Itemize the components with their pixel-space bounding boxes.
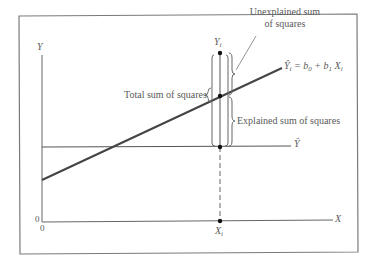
yi-label-text: Y [214, 36, 220, 47]
eq-x-sub: i [341, 65, 343, 73]
eq-plus-b: + b [312, 60, 329, 71]
unexplained-line1: Unexplained sum [245, 7, 325, 17]
explained-brace [229, 97, 235, 146]
xi-point [218, 219, 222, 223]
x-axis [42, 220, 333, 222]
unexplained-line2: of squares [245, 19, 325, 29]
eq-x: X [335, 60, 341, 71]
outer-frame [19, 14, 358, 254]
yhat-point [218, 94, 222, 98]
y-axis-label: Y [37, 42, 43, 52]
yi-label: Yi [214, 37, 222, 47]
regression-equation: Ŷi = b0 + b1 Xi [284, 61, 343, 71]
diagram-svg [0, 0, 376, 263]
eq-b0-sub: 0 [308, 65, 312, 73]
eq-yhat-sub: i [290, 65, 292, 73]
unexplained-brace [229, 53, 235, 95]
total-annotation: Total sum of squares [124, 90, 207, 100]
yi-label-sub: i [220, 41, 222, 49]
eq-b1-sub: 1 [329, 65, 333, 73]
y-origin-label: 0 [35, 215, 40, 224]
x-axis-label: X [335, 214, 341, 224]
mean-line [42, 146, 291, 147]
x-origin-label: 0 [40, 224, 45, 233]
xi-label: Xi [215, 226, 223, 236]
explained-annotation: Explained sum of squares [237, 116, 340, 126]
eq-yhat: Ŷ [284, 60, 290, 71]
unexplained-annotation: Unexplained sum of squares [245, 7, 325, 29]
xi-label-sub: i [221, 230, 223, 238]
unexplained-leader [236, 36, 256, 70]
ybar-point [218, 145, 222, 149]
mean-line-label: Ȳ [294, 139, 300, 149]
total-ss-bracket-right [225, 55, 228, 146]
eq-equals-b: = b [294, 60, 308, 71]
yi-point [218, 51, 222, 55]
